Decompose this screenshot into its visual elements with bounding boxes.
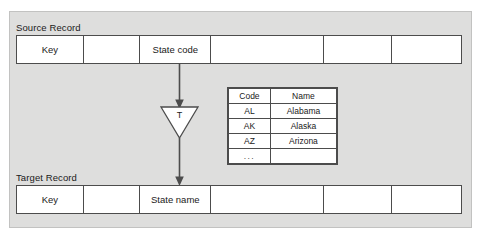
lookup-row: AZ Arizona [229, 134, 337, 149]
source-record-row: Key State code [16, 35, 462, 64]
source-cell-key: Key [17, 36, 84, 63]
target-cell-2 [84, 186, 141, 213]
lookup-header-code: Code [229, 89, 271, 104]
lookup-cell-code: AZ [229, 134, 271, 149]
target-record-row: Key State name [16, 185, 462, 214]
lookup-header-name: Name [270, 89, 336, 104]
source-cell-4 [211, 36, 323, 63]
source-cell-state-code: State code [140, 36, 211, 63]
target-record-label: Target Record [16, 172, 77, 183]
source-record-label: Source Record [16, 22, 81, 33]
lookup-cell-name: Arizona [270, 134, 336, 149]
lookup-row: ... [229, 149, 337, 164]
lookup-table: Code Name AL Alabama AK Alaska AZ Arizon… [227, 87, 338, 165]
lookup-cell-code: AL [229, 104, 271, 119]
source-cell-2 [84, 36, 141, 63]
lookup-cell-ellipsis: ... [229, 149, 271, 164]
target-cell-key: Key [17, 186, 84, 213]
lookup-cell-name: Alabama [270, 104, 336, 119]
lookup-header-row: Code Name [229, 89, 337, 104]
lookup-cell-code: AK [229, 119, 271, 134]
target-cell-4 [211, 186, 323, 213]
target-cell-5 [324, 186, 393, 213]
transform-symbol: T [161, 110, 198, 120]
target-cell-state-name: State name [140, 186, 211, 213]
source-cell-6 [392, 36, 461, 63]
lookup-row: AK Alaska [229, 119, 337, 134]
target-cell-6 [392, 186, 461, 213]
transformation-diagram: Source Record Key State code T Code Name [0, 0, 490, 246]
lookup-cell-name [270, 149, 336, 164]
source-cell-5 [324, 36, 393, 63]
lookup-cell-name: Alaska [270, 119, 336, 134]
lookup-row: AL Alabama [229, 104, 337, 119]
